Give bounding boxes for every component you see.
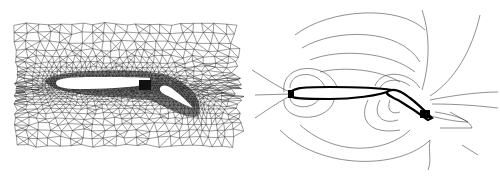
flap-trailing-edge	[420, 110, 430, 118]
main-airfoil	[290, 87, 392, 99]
contour-plot	[250, 0, 500, 180]
contour-panel	[250, 0, 500, 180]
triangular-mesh-plot	[0, 0, 250, 180]
leading-edge-stagnation	[288, 90, 294, 98]
flap-cove	[139, 80, 151, 90]
mesh-panel	[0, 0, 250, 180]
